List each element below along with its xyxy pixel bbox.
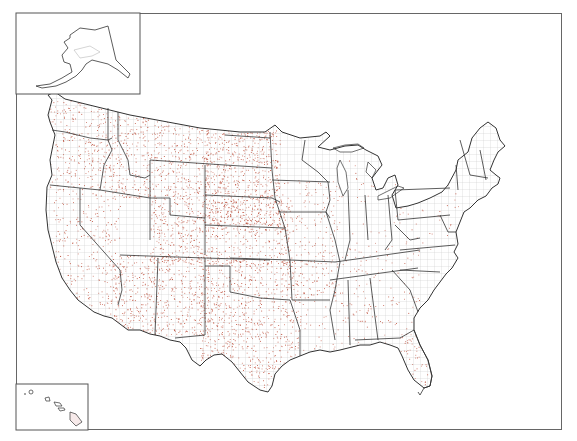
us-map bbox=[0, 0, 577, 441]
contiguous-us bbox=[40, 90, 510, 400]
hawaii-inset bbox=[16, 384, 88, 430]
alaska-inset bbox=[16, 13, 140, 94]
